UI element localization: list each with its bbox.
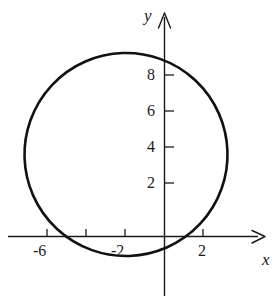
- y-tick-label-8: 8: [147, 66, 155, 84]
- y-tick-label-4: 4: [147, 138, 155, 156]
- y-tick-label-6: 6: [147, 102, 155, 120]
- x-tick-label-minus2: -2: [111, 242, 124, 260]
- x-axis-label: x: [262, 250, 270, 270]
- y-tick-label-2: 2: [147, 174, 155, 192]
- plotted-circle-curve: [21, 50, 231, 260]
- y-axis-label: y: [144, 6, 152, 26]
- y-axis-ticks: [165, 75, 174, 183]
- x-tick-label-2: 2: [198, 242, 206, 260]
- x-tick-label-minus6: -6: [33, 242, 46, 260]
- coordinate-plane-figure: y x -6 -2 2 8 6 4 2: [0, 0, 273, 301]
